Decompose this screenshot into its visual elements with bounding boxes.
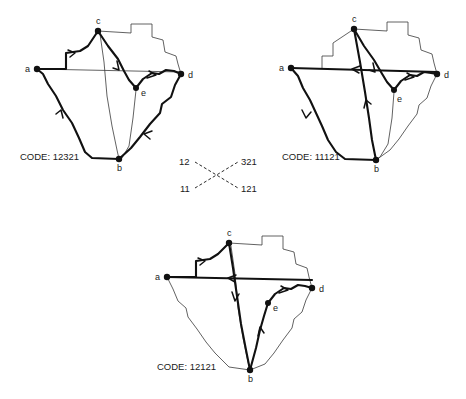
arrowhead-b-e-3 (258, 327, 264, 336)
node-e-3 (265, 300, 271, 306)
arrowhead-c-e (113, 61, 119, 70)
code-label-panel-3: CODE: 12121 (157, 361, 216, 372)
panel-top-left: a b c d e CODE: 12321 (20, 16, 193, 173)
edge-a-c-3 (167, 243, 229, 277)
edge-b-a (37, 69, 119, 159)
region-outline-west-2 (322, 29, 354, 68)
arrowhead-c-e (369, 63, 375, 72)
node-label-e: e (141, 88, 146, 98)
node-c-3 (226, 240, 232, 246)
edge-d-a (291, 68, 437, 72)
node-label-a: a (25, 64, 30, 74)
node-label-c: c (96, 16, 101, 26)
figure-root: a b c d e CODE: 12321 (0, 0, 466, 399)
edge-c-b-3 (229, 243, 250, 370)
edge-d-b (119, 74, 181, 159)
node-e (133, 85, 139, 91)
code-label-panel-1: CODE: 12321 (20, 151, 79, 162)
node-label-c-3: c (227, 228, 232, 238)
diagram-canvas: a b c d e CODE: 12321 (0, 0, 466, 399)
node-label-e-3: e (273, 303, 278, 313)
node-d-3 (309, 285, 315, 291)
arrowhead-a-b (302, 110, 311, 118)
node-label-d-2: d (444, 70, 449, 80)
panel-bottom: a b c d e CODE: 12121 (155, 228, 324, 384)
arrowhead-b-a (56, 110, 63, 118)
edge-e-b-chord (122, 90, 136, 158)
edge-b-e-3 (250, 303, 268, 370)
node-c-2 (351, 26, 357, 32)
node-d (178, 71, 184, 77)
edge-e-b-chord-2 (376, 92, 394, 160)
region-outline-west-3 (167, 277, 250, 370)
region-outline-east-2 (376, 74, 437, 160)
arrowhead-d-b (144, 131, 152, 139)
node-a-3 (164, 274, 170, 280)
node-label-c-2: c (352, 14, 357, 24)
node-d-2 (434, 71, 440, 77)
node-label-b-3: b (248, 374, 253, 384)
node-b-3 (247, 367, 253, 373)
legend-label-top-right: 321 (241, 156, 257, 167)
node-a-2 (288, 65, 294, 71)
node-b (116, 156, 122, 162)
node-c (95, 28, 101, 34)
node-label-b: b (117, 163, 122, 173)
node-label-d: d (188, 70, 193, 80)
node-a (34, 66, 40, 72)
node-label-e-2: e (397, 94, 402, 104)
edge-c-b-chord (100, 34, 119, 159)
node-label-a-3: a (155, 272, 160, 282)
legend-label-bottom-left: 11 (180, 183, 190, 194)
edge-d-a-3 (167, 277, 312, 280)
node-b-2 (373, 157, 379, 163)
panel-top-right: a b c d e CODE: 11121 (279, 14, 449, 174)
code-label-panel-2: CODE: 11121 (282, 151, 340, 162)
node-label-a-2: a (279, 63, 284, 73)
code-legend: 12 321 11 121 (179, 156, 257, 194)
node-label-d-3: d (319, 284, 324, 294)
node-e-2 (391, 87, 397, 93)
edge-e-d-3 (268, 285, 312, 303)
legend-label-bottom-right: 121 (241, 183, 257, 194)
node-label-b-2: b (374, 164, 379, 174)
legend-label-top-left: 12 (179, 156, 190, 167)
